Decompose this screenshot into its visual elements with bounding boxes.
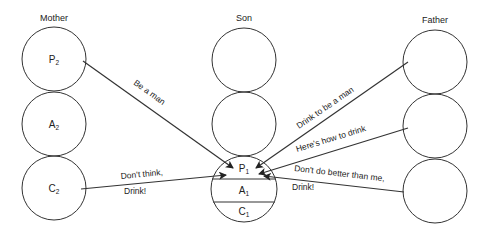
mother-parent-label: P2 [49, 54, 60, 66]
arrow-drink-to-be-a-man [256, 62, 408, 168]
label-dont-think: Don't think, [120, 167, 163, 181]
mother-child-label: C2 [49, 183, 60, 195]
father-bottom-circle [403, 159, 467, 223]
mother-adult-label: A2 [49, 119, 60, 131]
son-child-label: C1 [239, 206, 250, 218]
son-title: Son [236, 13, 252, 23]
mother-title: Mother [40, 13, 68, 23]
label-be-a-man: Be a man [132, 77, 168, 106]
label-dont-do-better: Don't do better than me, [294, 163, 385, 183]
label-drink-mother: Drink! [124, 186, 146, 196]
son-adult-label: A1 [239, 185, 250, 197]
father-middle-circle [403, 94, 467, 158]
label-drink-to-be-a-man: Drink to be a man [294, 84, 355, 130]
son-middle-circle [212, 92, 276, 156]
son-parent-label: P1 [239, 163, 250, 175]
father-top-circle [403, 30, 467, 94]
label-heres-how: Here's how to drink [295, 123, 368, 154]
arrow-be-a-man [83, 61, 233, 168]
script-diagram: Mother Son Father P2 A2 C2 P1 A1 C1 Be a… [0, 0, 488, 234]
label-drink-father: Drink! [292, 182, 314, 192]
father-title: Father [422, 15, 448, 25]
son-top-circle [212, 28, 276, 92]
